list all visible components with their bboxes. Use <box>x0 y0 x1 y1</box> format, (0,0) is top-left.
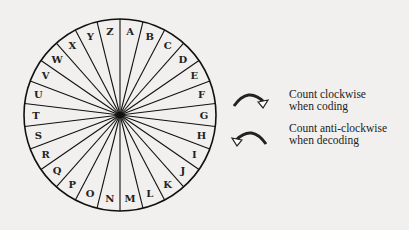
wheel-letter: M <box>125 193 136 204</box>
wheel-letter: F <box>198 89 205 100</box>
legend-decoding-line2: when decoding <box>289 134 387 146</box>
legend-coding: Count clockwise when coding <box>289 88 366 112</box>
wheel-letter: K <box>163 179 172 190</box>
wheel-letter: Y <box>86 31 95 42</box>
legend-decoding: Count anti-clockwise when decoding <box>289 122 387 146</box>
wheel-letter: P <box>69 179 77 190</box>
clockwise-arrow-icon <box>230 86 272 110</box>
wheel-letter: Q <box>53 165 62 176</box>
wheel-letter: N <box>105 193 114 204</box>
wheel-letter: W <box>51 54 64 65</box>
anticlockwise-arrow-icon <box>228 124 270 148</box>
cipher-wheel: ABCDEFGHIJKLMNOPQRSTUVWXYZ <box>0 0 409 230</box>
wheel-letter: G <box>200 110 209 121</box>
legend-coding-line1: Count clockwise <box>289 88 366 100</box>
wheel-letter: U <box>34 89 43 100</box>
wheel-letter: A <box>125 26 134 37</box>
wheel-letter: I <box>192 149 197 160</box>
wheel-letter: X <box>68 40 76 51</box>
wheel-letter: C <box>164 40 172 51</box>
wheel-letter: J <box>180 165 186 176</box>
wheel-letter: E <box>191 70 199 81</box>
legend-decoding-line1: Count anti-clockwise <box>289 122 387 134</box>
wheel-letter: O <box>86 188 95 199</box>
wheel-letter: V <box>41 70 50 81</box>
wheel-letter: L <box>146 188 153 199</box>
wheel-letter: B <box>146 31 154 42</box>
wheel-letter: T <box>32 110 40 121</box>
legend-coding-line2: when coding <box>289 100 366 112</box>
wheel-letter: R <box>41 149 50 160</box>
wheel-letter: H <box>197 130 206 141</box>
wheel-letter: Z <box>106 26 113 37</box>
wheel-letter: D <box>179 54 188 65</box>
wheel-letter: S <box>35 130 42 141</box>
